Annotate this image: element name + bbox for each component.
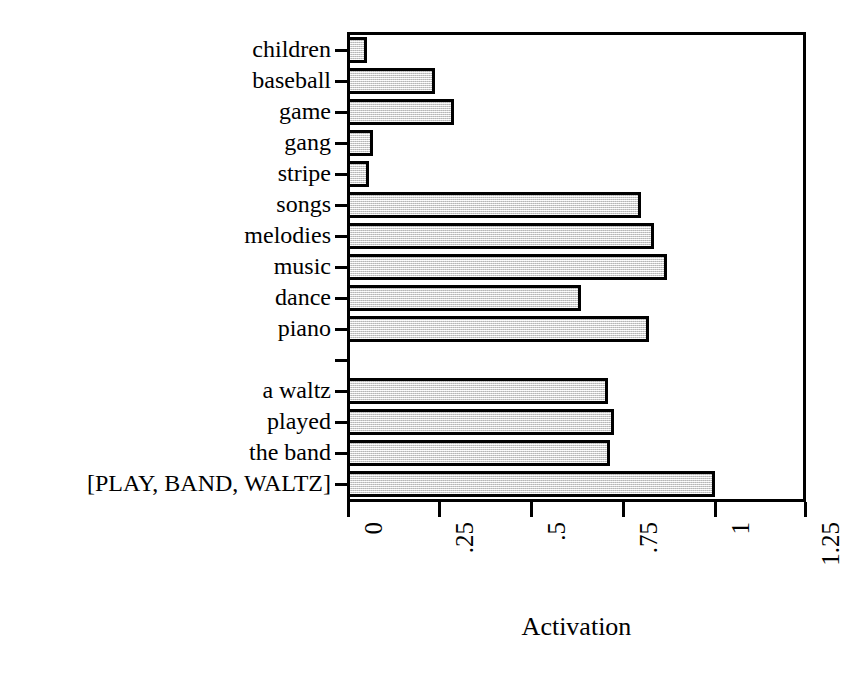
ytick-played xyxy=(335,421,347,424)
ytick-the-band xyxy=(335,452,347,455)
xtick-125 xyxy=(804,502,807,517)
xticklabel-05: .5 xyxy=(543,522,571,541)
xtick-1 xyxy=(714,502,717,517)
ytick-music xyxy=(335,266,347,269)
ylabel-children: children xyxy=(0,36,333,62)
xtick-0 xyxy=(347,502,350,517)
ytick-songs xyxy=(335,204,347,207)
bar-children xyxy=(347,37,367,63)
xticklabel-125: 1.25 xyxy=(817,522,845,566)
bar-game xyxy=(347,99,454,125)
xticklabel-1: 1 xyxy=(727,522,755,535)
xaxis-title: Activation xyxy=(347,612,806,642)
ylabel-melodies: melodies xyxy=(0,222,333,248)
bar-the-band xyxy=(347,440,610,466)
ytick-dance xyxy=(335,297,347,300)
ytick-melodies xyxy=(335,235,347,238)
xticklabel-0: 0 xyxy=(360,522,388,535)
bar-stripe xyxy=(347,161,369,187)
bar-melodies xyxy=(347,223,654,249)
ylabel-the-band: the band xyxy=(0,439,333,465)
bar-a-waltz xyxy=(347,378,608,404)
activation-bar-chart: children baseball game gang stripe songs… xyxy=(0,0,865,675)
ytick-gap-1 xyxy=(335,359,347,362)
xtick-05 xyxy=(530,502,533,517)
ytick-gang xyxy=(335,142,347,145)
bar-gang xyxy=(347,130,373,156)
bar-concept-triple xyxy=(347,471,715,497)
bar-piano xyxy=(347,316,649,342)
xticklabel-075: .75 xyxy=(635,522,663,553)
ylabel-dance: dance xyxy=(0,284,333,310)
xtick-075 xyxy=(622,502,625,517)
ylabel-stripe: stripe xyxy=(0,160,333,186)
ylabel-piano: piano xyxy=(0,315,333,341)
ylabel-game: game xyxy=(0,98,333,124)
bar-played xyxy=(347,409,614,435)
ylabel-baseball: baseball xyxy=(0,67,333,93)
xtick-025 xyxy=(438,502,441,517)
bar-baseball xyxy=(347,68,435,94)
bar-dance xyxy=(347,285,581,311)
ytick-stripe xyxy=(335,173,347,176)
ylabel-songs: songs xyxy=(0,191,333,217)
ytick-children xyxy=(335,49,347,52)
ytick-baseball xyxy=(335,80,347,83)
xticklabel-025: .25 xyxy=(451,522,479,553)
ylabel-concept-triple: [PLAY, BAND, WALTZ] xyxy=(0,470,333,496)
ylabel-a-waltz: a waltz xyxy=(0,377,333,403)
ytick-gap-2 xyxy=(335,483,347,486)
bar-music xyxy=(347,254,667,280)
ylabel-music: music xyxy=(0,253,333,279)
bar-songs xyxy=(347,192,641,218)
ytick-piano xyxy=(335,328,347,331)
ylabel-played: played xyxy=(0,408,333,434)
ytick-a-waltz xyxy=(335,390,347,393)
bars-layer xyxy=(347,32,806,502)
ytick-game xyxy=(335,111,347,114)
ylabel-gang: gang xyxy=(0,129,333,155)
